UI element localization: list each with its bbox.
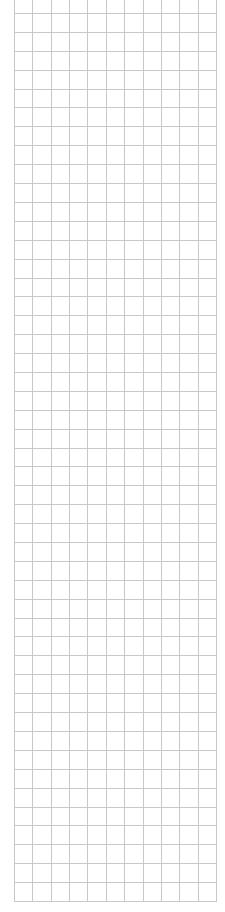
grid-paper [0, 0, 225, 912]
